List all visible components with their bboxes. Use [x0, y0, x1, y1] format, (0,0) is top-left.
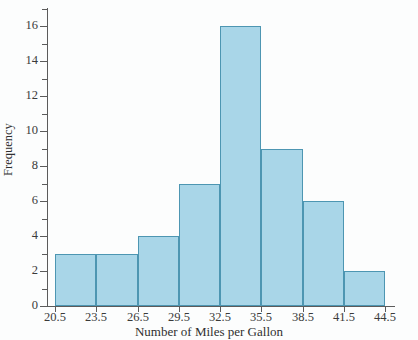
- histogram-bar: [55, 254, 96, 306]
- y-axis-tick: [40, 201, 47, 202]
- y-axis-minor-tick: [42, 44, 47, 45]
- x-axis-tick-label: 32.5: [198, 311, 242, 324]
- x-axis-title: Number of Miles per Gallon: [0, 324, 418, 340]
- y-axis-minor-tick: [42, 254, 47, 255]
- y-axis-tick-label: 0: [16, 299, 38, 312]
- histogram-bar: [96, 254, 137, 306]
- y-axis-minor-tick: [42, 289, 47, 290]
- y-axis-tick: [40, 26, 47, 27]
- plot-area: 0246810121416 20.523.526.529.532.535.538…: [0, 0, 418, 340]
- y-axis-tick-label: 4: [16, 229, 38, 242]
- y-axis-tick: [40, 236, 47, 237]
- y-axis-tick: [40, 306, 47, 307]
- y-axis-minor-tick: [42, 184, 47, 185]
- x-axis-tick-label: 35.5: [239, 311, 283, 324]
- y-axis-tick: [40, 166, 47, 167]
- x-axis-tick-label: 44.5: [363, 311, 407, 324]
- y-axis-line: [47, 8, 48, 307]
- y-axis-tick: [40, 96, 47, 97]
- x-axis-line: [47, 306, 395, 307]
- histogram-bar: [220, 26, 261, 306]
- y-axis-tick-label: 12: [16, 89, 38, 102]
- y-axis-tick-label: 10: [16, 124, 38, 137]
- y-axis-tick-label: 14: [16, 54, 38, 67]
- x-axis-tick-label: 29.5: [157, 311, 201, 324]
- x-axis-tick-label: 26.5: [116, 311, 160, 324]
- histogram-figure: 0246810121416 20.523.526.529.532.535.538…: [0, 0, 418, 340]
- x-axis-tick-label: 41.5: [322, 311, 366, 324]
- y-axis-title: Frequency: [1, 105, 16, 195]
- x-axis-tick-label: 23.5: [74, 311, 118, 324]
- y-axis-tick-label: 6: [16, 194, 38, 207]
- histogram-bar: [138, 236, 179, 306]
- y-axis-tick-label: 8: [16, 159, 38, 172]
- x-axis-tick-label: 38.5: [281, 311, 325, 324]
- x-axis-tick-label: 20.5: [33, 311, 77, 324]
- y-axis-tick-label: 2: [16, 264, 38, 277]
- y-axis-minor-tick: [42, 219, 47, 220]
- histogram-bar: [303, 201, 344, 306]
- histogram-bar: [261, 149, 302, 306]
- y-axis-minor-tick: [42, 149, 47, 150]
- histogram-bar: [179, 184, 220, 306]
- y-axis-tick: [40, 131, 47, 132]
- y-axis-minor-tick: [42, 9, 47, 10]
- y-axis-tick-label: 16: [16, 19, 38, 32]
- y-axis-tick: [40, 271, 47, 272]
- y-axis-tick: [40, 61, 47, 62]
- y-axis-minor-tick: [42, 114, 47, 115]
- histogram-bar: [344, 271, 385, 306]
- y-axis-minor-tick: [42, 79, 47, 80]
